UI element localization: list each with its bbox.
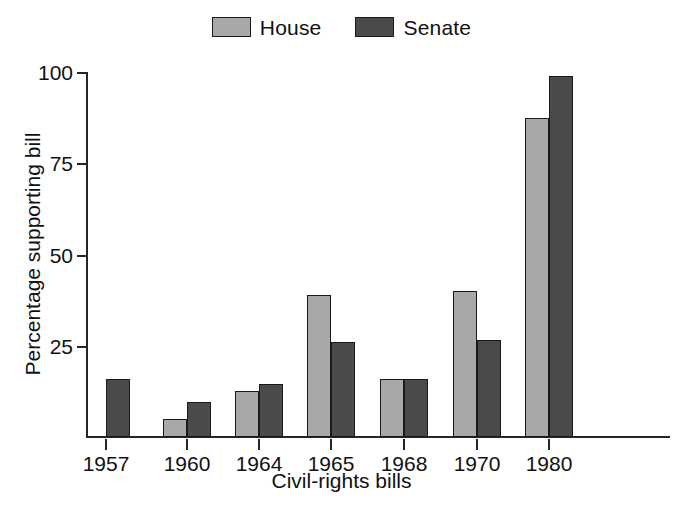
- y-tick-mark: [77, 72, 86, 74]
- y-axis-title: Percentage supporting bill: [22, 133, 43, 376]
- legend-entry-senate: Senate: [355, 17, 471, 38]
- bar-senate-1970: [477, 340, 501, 437]
- bar-senate-1968: [404, 379, 428, 437]
- y-tick-label: 50: [50, 244, 73, 265]
- bar-senate-1980: [549, 76, 573, 437]
- y-tick-mark: [77, 255, 86, 257]
- x-tick-mark-1965: [330, 439, 332, 450]
- y-tick-mark: [77, 346, 86, 348]
- x-tick-mark-1960: [186, 439, 188, 450]
- bar-senate-1965: [331, 342, 355, 437]
- y-tick-label: 100: [38, 62, 73, 83]
- plot-area: 255075100 1957196019641965196819701980 P…: [86, 72, 670, 437]
- bar-senate-1964: [259, 384, 283, 437]
- x-tick-mark-1964: [258, 439, 260, 450]
- x-tick-mark-1970: [476, 439, 478, 450]
- bar-house-1960: [163, 419, 187, 437]
- legend-swatch-house: [212, 17, 251, 37]
- bar-house-1970: [453, 291, 477, 437]
- chart-legend: House Senate: [0, 10, 683, 44]
- bar-senate-1957: [106, 379, 130, 437]
- x-tick-mark-1957: [105, 439, 107, 450]
- legend-label-senate: Senate: [403, 17, 471, 38]
- bar-house-1964: [235, 391, 259, 437]
- legend-entry-house: House: [212, 17, 322, 38]
- x-tick-mark-1968: [403, 439, 405, 450]
- y-tick-label: 25: [50, 335, 73, 356]
- x-axis-title: Civil-rights bills: [0, 470, 683, 491]
- legend-label-house: House: [260, 17, 322, 38]
- bar-house-1968: [380, 379, 404, 437]
- y-tick-mark: [77, 163, 86, 165]
- bar-senate-1960: [187, 402, 211, 437]
- bar-house-1965: [307, 295, 331, 437]
- legend-swatch-senate: [355, 17, 394, 37]
- x-tick-mark-1980: [548, 439, 550, 450]
- bar-house-1980: [525, 118, 549, 437]
- y-tick-label: 75: [50, 153, 73, 174]
